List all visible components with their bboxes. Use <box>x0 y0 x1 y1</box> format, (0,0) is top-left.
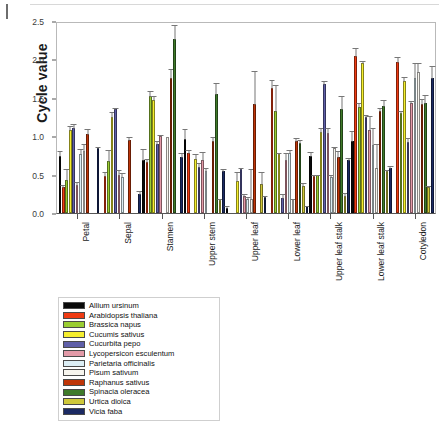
bar <box>427 187 430 213</box>
x-tick-label: Stamen <box>165 222 175 251</box>
legend-item: Lycopersicon esculentum <box>63 349 215 359</box>
bar <box>271 88 274 213</box>
bar <box>114 109 117 213</box>
error-bar <box>418 63 419 74</box>
legend-swatch <box>63 321 85 328</box>
bar <box>156 144 159 213</box>
error-bar <box>84 144 85 152</box>
x-tick-label: Upper leaf stalk <box>334 222 344 281</box>
y-tick-label: 1.0 <box>32 132 44 142</box>
error-bar <box>73 124 74 129</box>
bar <box>198 167 201 213</box>
error-bar <box>240 168 241 170</box>
bar <box>146 162 149 213</box>
bar <box>69 130 72 213</box>
x-tick-label: Lower leaf <box>292 222 302 261</box>
error-bar <box>97 147 98 149</box>
bar <box>62 187 65 213</box>
error-bar <box>254 71 255 106</box>
legend-label: Allium ursinum <box>89 301 139 311</box>
error-bar <box>139 191 140 195</box>
error-bar <box>303 183 304 187</box>
page-margin-mark <box>6 4 8 19</box>
error-bar <box>428 186 429 188</box>
error-bar <box>70 126 71 131</box>
legend-item: Spinacia oleracea <box>63 387 215 397</box>
legend-label: Cucurbita pepo <box>89 339 141 349</box>
bar <box>361 63 364 213</box>
x-tick-mark <box>246 214 247 219</box>
bar <box>344 196 347 213</box>
bar <box>309 156 312 213</box>
legend-swatch <box>63 379 85 386</box>
error-bar <box>362 61 363 64</box>
bar <box>274 111 277 213</box>
error-bar <box>199 163 200 168</box>
bar <box>212 141 215 213</box>
bar <box>215 94 218 213</box>
error-bar <box>407 138 408 143</box>
error-bar <box>195 154 196 159</box>
x-tick-mark <box>373 214 374 219</box>
legend-item: Raphanus sativus <box>63 378 215 388</box>
bar <box>142 160 145 213</box>
x-tick-label: Upper stem <box>207 222 217 266</box>
legend-label: Cucumis sativus <box>89 330 144 340</box>
bar <box>333 148 336 213</box>
bar <box>86 134 89 213</box>
bar <box>111 117 114 213</box>
error-bar <box>334 147 335 149</box>
error-bar <box>202 152 203 161</box>
error-bar <box>188 150 189 154</box>
bar <box>292 199 295 213</box>
error-bar <box>115 108 116 110</box>
error-bar <box>153 96 154 101</box>
bar <box>65 180 68 213</box>
bar <box>121 177 124 213</box>
error-bar <box>80 149 81 155</box>
bar <box>379 111 382 213</box>
bar-group <box>225 24 267 213</box>
legend-swatch <box>63 312 85 319</box>
bar-group <box>100 24 142 213</box>
error-bar <box>237 172 238 181</box>
plot-area <box>56 22 436 214</box>
error-bar <box>386 170 387 172</box>
bar <box>386 171 389 213</box>
bar <box>250 199 253 213</box>
y-tick-label: 2.5 <box>32 17 44 27</box>
bar-group <box>309 24 351 213</box>
error-bar <box>181 153 182 158</box>
error-bar <box>352 131 353 142</box>
error-bar <box>320 128 321 133</box>
error-bar <box>376 144 377 169</box>
legend-label: Pisum sativum <box>89 368 138 378</box>
error-bar <box>59 151 60 156</box>
bar <box>187 153 190 213</box>
bar <box>107 161 110 213</box>
legend-label: Raphanus sativus <box>89 378 149 388</box>
error-bar <box>432 66 433 79</box>
chart-screenshot: Cycle value 0.00.51.01.52.02.5 PetalSepa… <box>0 0 443 434</box>
bar <box>327 133 330 213</box>
bar <box>302 186 305 213</box>
y-axis-tick-labels: 0.00.51.01.52.02.5 <box>0 22 52 214</box>
error-bar <box>129 137 130 141</box>
error-bar <box>383 100 384 107</box>
error-bar <box>411 101 412 105</box>
legend-swatch <box>63 360 85 367</box>
x-tick-mark <box>119 214 120 219</box>
error-bar <box>355 48 356 57</box>
bar <box>194 159 197 213</box>
bar <box>219 200 222 213</box>
error-bar <box>157 141 158 146</box>
legend-label: Vicia faba <box>89 407 122 417</box>
legend-swatch <box>63 369 85 376</box>
bar <box>410 103 413 213</box>
error-bar <box>345 193 346 198</box>
error-bar <box>105 172 106 177</box>
error-bar <box>282 194 283 199</box>
error-bar <box>216 83 217 95</box>
legend-swatch <box>63 341 85 348</box>
bar <box>313 176 316 213</box>
